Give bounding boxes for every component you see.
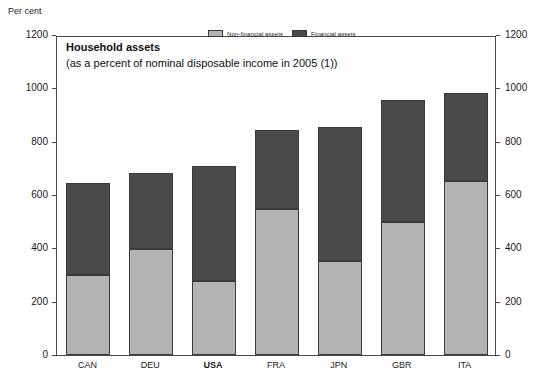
chart-legend: Non-financial assets Financial assets — [208, 30, 356, 37]
bar-deu — [129, 173, 173, 355]
x-axis-label-deu: DEU — [119, 360, 182, 370]
stacked-bar-chart: Per cent 0020020040040060060080080010001… — [0, 0, 550, 389]
bar-segment-non-financial-fra — [255, 209, 299, 355]
bar-segment-financial-fra — [255, 130, 299, 209]
y-axis-unit-label: Per cent — [8, 6, 42, 16]
bar-segment-non-financial-jpn — [318, 261, 362, 355]
bars-layer — [57, 37, 495, 355]
bar-gbr — [381, 100, 425, 355]
y-axis-label-right-1000: 1000 — [505, 82, 527, 93]
bar-segment-non-financial-usa — [192, 281, 236, 355]
y-axis-label-left-400: 400 — [31, 242, 48, 253]
tick-mark-right — [496, 88, 500, 89]
legend-label-non-financial: Non-financial assets — [227, 31, 283, 37]
legend-label-financial: Financial assets — [311, 31, 356, 37]
y-axis-label-right-600: 600 — [505, 189, 522, 200]
plot-area — [56, 36, 496, 356]
bar-segment-financial-jpn — [318, 127, 362, 261]
x-axis-label-can: CAN — [56, 360, 119, 370]
x-axis-label-gbr: GBR — [370, 360, 433, 370]
tick-mark-right — [496, 355, 500, 356]
y-axis-label-left-800: 800 — [31, 136, 48, 147]
bar-jpn — [318, 127, 362, 355]
y-axis-label-left-200: 200 — [31, 296, 48, 307]
tick-mark-right — [496, 302, 500, 303]
tick-mark-left — [52, 355, 56, 356]
tick-mark-right — [496, 248, 500, 249]
chart-subtitle: (as a percent of nominal disposable inco… — [66, 56, 337, 72]
tick-mark-left — [52, 302, 56, 303]
bar-segment-non-financial-gbr — [381, 222, 425, 355]
y-axis-label-left-0: 0 — [42, 349, 48, 360]
x-axis-label-usa: USA — [182, 360, 245, 370]
bar-segment-financial-deu — [129, 173, 173, 249]
tick-mark-left — [52, 35, 56, 36]
x-axis-label-jpn: JPN — [307, 360, 370, 370]
x-axis-label-fra: FRA — [245, 360, 308, 370]
chart-title-block: Household assets (as a percent of nomina… — [66, 40, 337, 72]
tick-mark-right — [496, 195, 500, 196]
x-axis-label-ita: ITA — [433, 360, 496, 370]
bar-segment-financial-gbr — [381, 100, 425, 222]
y-axis-label-right-0: 0 — [505, 349, 511, 360]
bar-segment-non-financial-deu — [129, 249, 173, 355]
tick-mark-left — [52, 142, 56, 143]
bar-usa — [192, 166, 236, 355]
y-axis-label-left-1000: 1000 — [26, 82, 48, 93]
chart-title: Household assets — [66, 40, 337, 56]
x-axis-labels: CANDEUUSAFRAJPNGBRITA — [56, 360, 496, 376]
tick-mark-left — [52, 248, 56, 249]
y-axis-label-right-1200: 1200 — [505, 29, 527, 40]
bar-fra — [255, 130, 299, 355]
bar-segment-non-financial-ita — [444, 181, 488, 355]
bar-segment-financial-usa — [192, 166, 236, 281]
bar-segment-financial-ita — [444, 93, 488, 181]
tick-mark-left — [52, 88, 56, 89]
legend-entry-financial-assets: Financial assets — [292, 30, 356, 37]
y-axis-label-right-800: 800 — [505, 136, 522, 147]
legend-swatch-icon-non-financial — [208, 30, 223, 37]
tick-mark-right — [496, 35, 500, 36]
y-axis-label-right-200: 200 — [505, 296, 522, 307]
tick-mark-left — [52, 195, 56, 196]
y-axis-label-left-600: 600 — [31, 189, 48, 200]
legend-swatch-icon-financial — [292, 30, 307, 37]
bar-segment-financial-can — [66, 183, 110, 275]
bar-segment-non-financial-can — [66, 275, 110, 355]
tick-mark-right — [496, 142, 500, 143]
legend-entry-non-financial-assets: Non-financial assets — [208, 30, 283, 37]
y-axis-label-left-1200: 1200 — [26, 29, 48, 40]
bar-ita — [444, 93, 488, 355]
y-axis-label-right-400: 400 — [505, 242, 522, 253]
bar-can — [66, 183, 110, 355]
